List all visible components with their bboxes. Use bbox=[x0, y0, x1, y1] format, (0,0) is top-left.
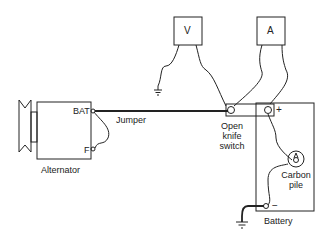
battery-negative-terminal-icon bbox=[264, 204, 269, 209]
wiring-diagram-canvas bbox=[0, 0, 331, 239]
jumper-label: Jumper bbox=[116, 115, 146, 125]
carbon-pile-label: Carbon pile bbox=[278, 170, 314, 190]
battery-positive-label: + bbox=[276, 105, 282, 115]
voltmeter-label: V bbox=[184, 26, 191, 36]
ammeter-wire-1 bbox=[234, 45, 262, 106]
battery-label: Battery bbox=[264, 216, 293, 226]
bat-to-field-wire bbox=[94, 112, 109, 148]
voltmeter-switch-wire bbox=[196, 45, 226, 106]
battery-ground-icon bbox=[236, 222, 248, 228]
switch-label-line2: knife bbox=[214, 131, 250, 141]
field-terminal-label: F bbox=[84, 145, 90, 155]
carbon-pile-label-line1: Carbon bbox=[278, 170, 314, 180]
carbon-pile-label-line2: pile bbox=[278, 180, 314, 190]
positive-to-carbon-pile-wire bbox=[268, 114, 292, 160]
ammeter-label: A bbox=[267, 26, 274, 36]
battery-negative-label: − bbox=[272, 201, 278, 211]
switch-terminal-1-icon bbox=[228, 107, 235, 114]
pulley-icon bbox=[19, 100, 31, 152]
switch-label-line1: Open bbox=[214, 121, 250, 131]
switch-label: Open knife switch bbox=[214, 121, 250, 151]
bat-terminal-label: BAT bbox=[73, 106, 90, 116]
alternator-label: Alternator bbox=[41, 165, 80, 175]
ammeter-wire-2 bbox=[270, 45, 288, 104]
ground-icon bbox=[154, 90, 162, 95]
switch-label-line3: switch bbox=[214, 141, 250, 151]
alternator-shaft bbox=[31, 112, 37, 142]
field-terminal-icon bbox=[91, 147, 95, 151]
carbon-pile-icon bbox=[294, 153, 299, 163]
switch-terminal-2-icon bbox=[265, 107, 272, 114]
knife-switch-body bbox=[226, 104, 274, 116]
negative-ground-wire bbox=[242, 206, 264, 222]
voltmeter-ground-wire bbox=[158, 45, 179, 90]
battery-body bbox=[256, 103, 314, 211]
